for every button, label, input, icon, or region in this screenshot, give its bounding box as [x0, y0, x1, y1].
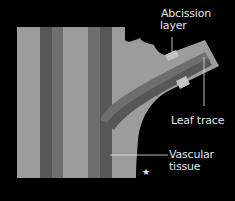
star-marker-icon: ★ [142, 166, 150, 178]
vascular-bundle-left-dark [40, 27, 52, 178]
abscission-label-line2: layer [160, 20, 187, 32]
vascular-label-line2: tissue [169, 161, 200, 173]
vascular-bundle-left-medium [52, 27, 63, 178]
vascular-bundle-right-medium [88, 27, 100, 178]
leaf-trace-label: Leaf trace [171, 115, 224, 127]
